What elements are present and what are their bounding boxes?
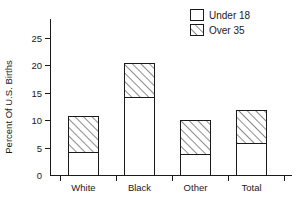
y-axis-title: Percent Of U.S. Births <box>3 60 14 154</box>
legend-label-over35: Over 35 <box>209 25 245 36</box>
bar-segment-white-over35[interactable] <box>69 116 99 152</box>
y-tick-label-25: 25 <box>31 33 42 44</box>
y-tick-label-20: 20 <box>31 60 42 71</box>
bar-group-other[interactable] <box>181 121 211 176</box>
bar-group-total[interactable] <box>237 110 267 175</box>
legend-swatch-white-icon <box>191 10 204 21</box>
bar-segment-black-over35[interactable] <box>125 64 155 98</box>
bar-segment-other-over35[interactable] <box>181 121 211 155</box>
x-axis-label-other: Other <box>184 182 208 193</box>
bar-segment-total-over35[interactable] <box>237 110 267 143</box>
chart-figure: Percent Of U.S. Births 25 20 15 10 5 0 <box>0 0 301 197</box>
y-axis-ticks: 25 20 15 10 5 0 <box>31 33 50 181</box>
x-axis-labels: White Black Other Total <box>71 182 261 193</box>
x-axis-label-total: Total <box>241 182 261 193</box>
y-axis-title-text: Percent Of U.S. Births <box>3 60 14 154</box>
y-tick-label-5: 5 <box>37 143 42 154</box>
chart-legend: Under 18 Over 35 <box>191 10 251 37</box>
bar-segment-other-under18[interactable] <box>181 155 211 176</box>
y-tick-label-0: 0 <box>37 170 42 181</box>
bar-group-black[interactable] <box>125 64 155 176</box>
x-axis-ticks <box>61 176 285 182</box>
legend-swatch-hatched-icon <box>191 25 204 36</box>
bar-chart-svg: Percent Of U.S. Births 25 20 15 10 5 0 <box>0 0 301 197</box>
bar-segment-total-under18[interactable] <box>237 144 267 176</box>
bar-group-white[interactable] <box>69 116 99 175</box>
x-axis-label-black: Black <box>128 182 151 193</box>
y-tick-label-10: 10 <box>31 115 42 126</box>
y-tick-label-15: 15 <box>31 88 42 99</box>
bar-segment-white-under18[interactable] <box>69 153 99 176</box>
x-axis-label-white: White <box>71 182 95 193</box>
bar-segment-black-under18[interactable] <box>125 98 155 176</box>
legend-label-under18: Under 18 <box>209 10 251 21</box>
